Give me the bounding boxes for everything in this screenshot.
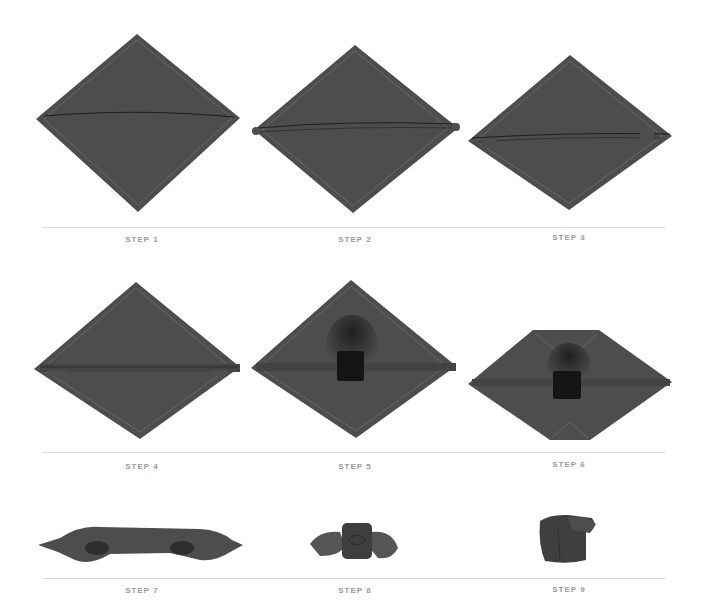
step-1-fabric-diamond <box>36 34 240 212</box>
step-6-fabric-folded <box>468 330 672 440</box>
step-9-wrapped-bundle <box>540 515 596 563</box>
step-4-label: STEP 4 <box>82 462 202 471</box>
step-5-fabric-with-item <box>251 280 456 438</box>
step-2-label: STEP 2 <box>295 235 415 244</box>
furoshiki-steps-diagram: STEP 1 STEP 2 STEP 3 STEP 4 STEP 5 STEP … <box>0 0 707 616</box>
step-8-knot <box>310 523 398 559</box>
step-5-item-box <box>337 351 364 381</box>
step-6-label: STEP 6 <box>509 460 629 469</box>
step-5-label: STEP 5 <box>295 462 415 471</box>
step-3-fabric-diamond <box>468 55 672 210</box>
step-3-label: STEP 3 <box>509 233 629 242</box>
step-6-item-box <box>553 371 581 399</box>
step-7-rolled-fabric <box>38 527 243 562</box>
row-2-divider <box>42 452 665 453</box>
step-8-label: STEP 8 <box>295 586 415 595</box>
step-7-label: STEP 7 <box>82 586 202 595</box>
step-2-fabric-diamond <box>252 45 460 213</box>
row-1-divider <box>42 227 665 228</box>
row-3-divider <box>42 578 665 579</box>
steps-illustration <box>0 0 707 616</box>
step-1-label: STEP 1 <box>82 235 202 244</box>
step-9-label: STEP 9 <box>509 585 629 594</box>
step-4-fabric-diamond <box>34 282 240 439</box>
